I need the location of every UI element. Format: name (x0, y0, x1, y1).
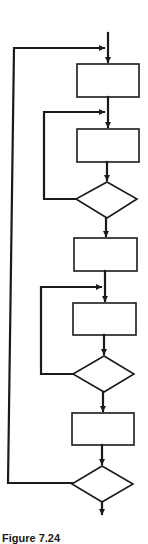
decision-diamond-3 (72, 466, 133, 502)
inner-loop-2-connector (41, 287, 101, 374)
process-box-2 (77, 129, 139, 162)
decision-diamond-1 (76, 182, 137, 218)
process-box-5 (72, 413, 134, 445)
decision-diamond-2 (73, 356, 134, 392)
process-box-1 (77, 64, 139, 97)
outer-loop-connector (8, 48, 104, 483)
inner-loop-1-connector (44, 112, 104, 199)
figure-caption: Figure 7.24 (2, 532, 60, 544)
process-box-3 (74, 238, 137, 271)
process-box-4 (73, 303, 136, 335)
